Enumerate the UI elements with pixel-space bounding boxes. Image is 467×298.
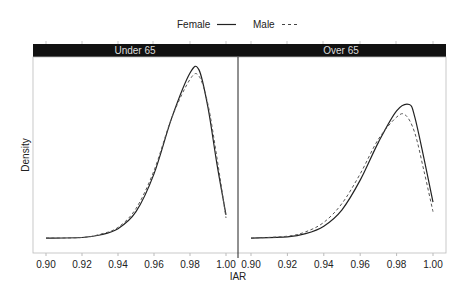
strip-label-over-65: Over 65 [323,45,359,56]
x-tick-label: 1.00 [423,259,443,270]
x-tick-label: 0.94 [314,259,334,270]
x-axis-ticks: 0.900.920.940.960.981.000.900.920.940.96… [36,253,443,270]
plot-frame [33,57,446,253]
curve-female [46,66,226,238]
x-tick-label: 0.98 [180,259,200,270]
x-tick-label: 0.96 [144,259,164,270]
legend-label-male: Male [253,19,275,30]
legend-label-female: Female [177,19,211,30]
x-axis-label: IAR [230,271,247,282]
curve-male [46,74,226,239]
x-tick-label: 0.90 [241,259,261,270]
x-tick-label: 1.00 [216,259,236,270]
density-curves [46,66,433,238]
x-tick-label: 0.98 [387,259,407,270]
x-tick-label: 0.94 [108,259,128,270]
x-tick-label: 0.92 [278,259,298,270]
panel-strips: Under 65 Over 65 [33,41,446,57]
x-tick-label: 0.92 [72,259,92,270]
y-axis-label: Density [20,138,31,171]
legend: Female Male [177,19,298,30]
curve-male [251,114,433,238]
density-chart: Female Male Under 65 Over 65 0.900.920.9… [0,0,467,298]
x-tick-label: 0.90 [36,259,56,270]
x-tick-label: 0.96 [350,259,370,270]
curve-female [251,104,433,238]
strip-label-under-65: Under 65 [114,45,156,56]
